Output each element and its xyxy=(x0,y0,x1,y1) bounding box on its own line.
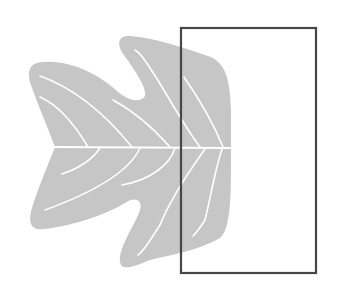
leaf xyxy=(29,36,231,267)
midrib xyxy=(55,147,231,148)
leaf-diagram xyxy=(0,0,340,288)
leaf-blade xyxy=(29,36,231,267)
